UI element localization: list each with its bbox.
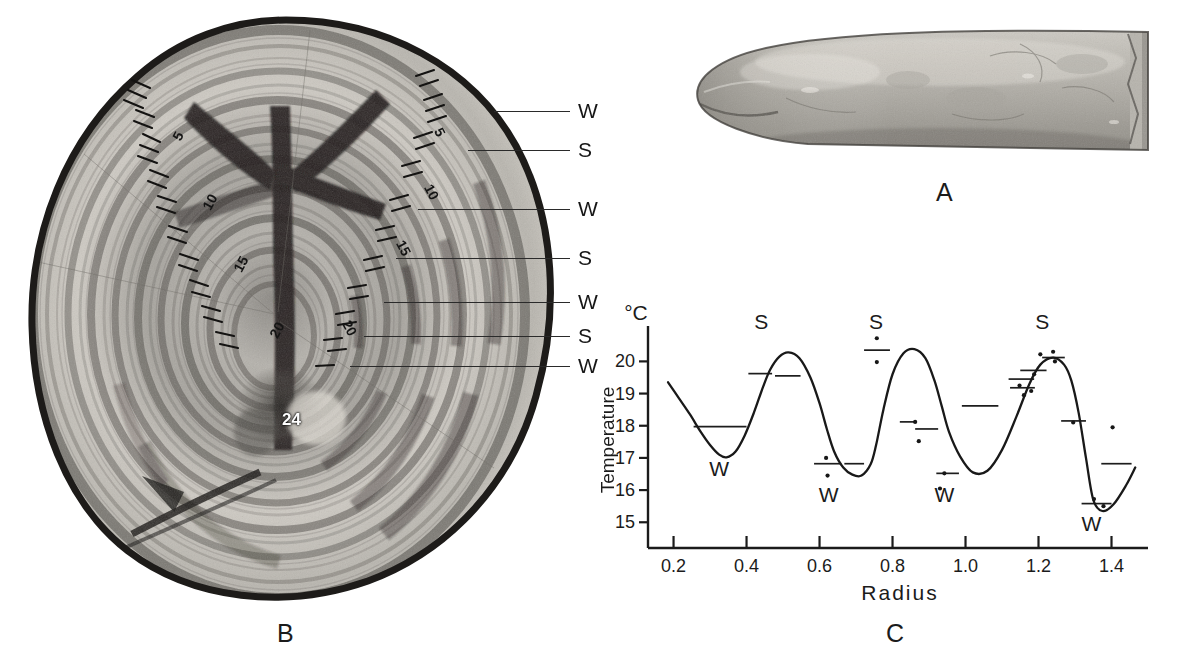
x-tick-label: 0.6: [807, 556, 832, 576]
data-point: [1032, 372, 1036, 376]
y-tick-label: 15: [615, 512, 635, 532]
y-axis-unit-label: °C: [624, 301, 648, 324]
winter-annotation: W: [709, 457, 729, 480]
leader-line-w2: [418, 209, 570, 210]
panel-label-b: B: [277, 619, 294, 648]
panel-label-a: A: [936, 178, 953, 207]
panel-b-otolith-section: 5 10 15 20 5 10 15 20 24: [24, 14, 564, 609]
panel-label-c: C: [886, 619, 905, 648]
x-tick-label: 0.4: [734, 556, 759, 576]
mean-level-bars: [694, 350, 1132, 503]
season-label-w1: W: [578, 99, 598, 123]
x-tick-label: 1.0: [953, 556, 978, 576]
leader-line-s1: [468, 150, 570, 151]
leader-line-w4: [350, 366, 570, 367]
data-point: [1110, 425, 1114, 429]
data-point: [1101, 504, 1105, 508]
winter-annotation: W: [1082, 512, 1102, 535]
data-point: [1029, 389, 1033, 393]
x-axis-ticks: [674, 536, 1112, 548]
data-point: [942, 471, 946, 475]
data-point: [1022, 393, 1026, 397]
measurement-points: [824, 336, 1115, 508]
season-label-w4: W: [578, 354, 598, 378]
summer-annotation: S: [754, 310, 768, 333]
otolith-section-image: [24, 14, 564, 609]
x-tick-label: 1.2: [1026, 556, 1051, 576]
data-point: [1051, 350, 1055, 354]
panel-c-temperature-chart: 151617181920 0.20.40.60.81.01.21.4 SSSWW…: [600, 300, 1160, 610]
winter-annotation: W: [934, 483, 954, 506]
winter-annotation: W: [819, 483, 839, 506]
x-axis-title: Radius: [861, 581, 938, 604]
y-tick-label: 20: [615, 351, 635, 371]
data-point: [1071, 420, 1075, 424]
season-label-w2: W: [578, 197, 598, 221]
data-point: [1038, 352, 1042, 356]
data-point: [1017, 383, 1021, 387]
y-axis-ticks: [639, 361, 648, 522]
data-point: [1053, 359, 1057, 363]
leader-line-s3: [364, 336, 570, 337]
data-point: [913, 420, 917, 424]
temperature-radius-plot: 151617181920 0.20.40.60.81.01.21.4 SSSWW…: [600, 300, 1160, 610]
season-annotations: SSSWWWW: [709, 310, 1101, 535]
ring-count-center-24: 24: [282, 410, 301, 430]
data-point: [824, 456, 828, 460]
season-label-s3: S: [578, 324, 592, 348]
temperature-curve: [668, 349, 1135, 511]
season-label-w3: W: [578, 290, 598, 314]
panel-a-whole-otolith: [690, 18, 1160, 168]
leader-line-w1: [494, 111, 570, 112]
data-point: [825, 474, 829, 478]
data-point: [875, 336, 879, 340]
leader-line-w3: [384, 302, 570, 303]
x-tick-label: 0.8: [880, 556, 905, 576]
summer-annotation: S: [869, 310, 883, 333]
data-point: [917, 439, 921, 443]
data-point: [1092, 497, 1096, 501]
x-tick-label: 1.4: [1099, 556, 1124, 576]
x-tick-label: 0.2: [661, 556, 686, 576]
x-axis-tick-labels: 0.20.40.60.81.01.21.4: [661, 556, 1124, 576]
leader-line-s2: [396, 258, 570, 259]
whole-otolith-image: [690, 18, 1160, 168]
summer-annotation: S: [1035, 310, 1049, 333]
data-point: [875, 360, 879, 364]
season-label-s1: S: [578, 138, 592, 162]
season-label-s2: S: [578, 246, 592, 270]
y-axis-title: Temperature: [600, 387, 618, 494]
figure-root: 5 10 15 20 5 10 15 20 24 W S W S W S W: [0, 0, 1180, 671]
